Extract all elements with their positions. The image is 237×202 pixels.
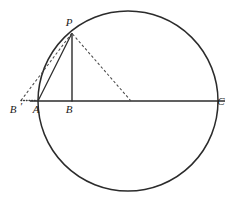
point-label-p: P (65, 16, 73, 28)
point-label-b-prime: B (10, 103, 17, 115)
geometry-figure-container: P B ′ A B C (0, 0, 237, 202)
point-label-a: A (32, 103, 40, 115)
point-label-b-prime-mark: ′ (20, 100, 23, 112)
segment-chord-pa (38, 33, 72, 101)
geometry-figure-svg: P B ′ A B C (0, 0, 237, 202)
segment-dashed-bprime-to-p (21, 33, 72, 101)
segment-dashed-p-to-d (73, 34, 132, 101)
point-label-b: B (66, 103, 73, 115)
point-label-c: C (217, 95, 225, 107)
